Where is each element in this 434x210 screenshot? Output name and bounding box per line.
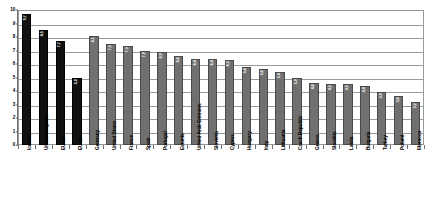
bar-slot: 8,1 <box>86 10 103 145</box>
bar-slot: 6,9 <box>153 10 170 145</box>
bar-value-label: 5,0 <box>75 79 79 84</box>
x-axis-tick-mark <box>306 145 307 149</box>
bar-value-label: 7,5 <box>109 45 113 50</box>
bar-slot: 5,6 <box>255 10 272 145</box>
bar-slot: 3,9 <box>373 10 390 145</box>
y-axis-tick-label: 2 <box>13 116 15 121</box>
bar-slot: 7,7 <box>52 10 69 145</box>
x-axis-tick-mark <box>35 145 36 149</box>
x-axis-tick-mark <box>289 145 290 149</box>
bar-value-label: 3,6 <box>397 98 401 103</box>
bar-slot: 6,6 <box>170 10 187 145</box>
bar-value-label: 4,4 <box>363 87 367 92</box>
bar-value-label: 7,3 <box>126 48 130 53</box>
category-label: Germany <box>96 130 101 150</box>
y-axis-tick-label: 3 <box>13 102 15 107</box>
y-axis-tick-label: 6 <box>13 62 15 67</box>
category-label: EU-15 <box>62 137 67 150</box>
y-axis-tick-label: 4 <box>13 89 15 94</box>
category-label: United Kingdom <box>45 114 50 150</box>
y-axis-tick-label: 7 <box>13 48 15 53</box>
category-label: Czech Republic <box>299 116 304 150</box>
bar[interactable]: 7,3 <box>123 46 132 145</box>
bar-value-label: 6,4 <box>194 60 198 65</box>
bar[interactable]: 5,0 <box>72 78 81 146</box>
bar[interactable]: 7,0 <box>140 51 149 146</box>
x-axis-tick-mark <box>390 145 391 149</box>
bar-value-label: 6,6 <box>177 57 181 62</box>
bar-slot: 5,8 <box>238 10 255 145</box>
bar-slot: 3,2 <box>407 10 424 145</box>
x-axis-tick-mark <box>170 145 171 149</box>
x-axis-tick-mark <box>52 145 53 149</box>
x-axis-tick-mark <box>103 145 104 149</box>
y-axis-tick-label: 9 <box>13 21 15 26</box>
category-label: Bulgaria <box>367 132 372 150</box>
category-label: Turkey <box>384 135 389 150</box>
category-label: France <box>130 135 135 150</box>
category-label: Slovakia <box>333 131 338 150</box>
category-label: Portugal <box>164 131 169 150</box>
bar-slot: 9,7 <box>18 10 35 145</box>
bar-slot: 6,4 <box>204 10 221 145</box>
category-label: Estonia <box>181 133 186 150</box>
bar-value-label: 8,5 <box>42 32 46 37</box>
bar-slot: 6,3 <box>221 10 238 145</box>
bar-value-label: 4,5 <box>329 86 333 91</box>
bar-value-label: 5,4 <box>278 73 282 78</box>
bars-layer: 9,78,57,75,08,17,57,37,06,96,66,46,46,35… <box>18 10 424 145</box>
bar-slot: 7,0 <box>136 10 153 145</box>
bar-value-label: 7,0 <box>143 52 147 57</box>
bar-value-label: 3,2 <box>414 103 418 108</box>
x-axis-tick-mark <box>153 145 154 149</box>
x-axis-tick-mark <box>339 145 340 149</box>
category-label: Spain <box>147 137 152 150</box>
category-label: EU-25 <box>79 137 84 150</box>
y-axis-tick-label: 5 <box>13 75 15 80</box>
x-axis-tick-mark <box>373 145 374 149</box>
bar-value-label: 6,4 <box>211 60 215 65</box>
category-labels: IcelandUnited KingdomEU-15EU-25GermanyUn… <box>18 150 424 208</box>
bar-value-label: 4,5 <box>346 86 350 91</box>
category-label: Morocco <box>418 131 423 150</box>
y-axis-tick-label: 1 <box>13 129 15 134</box>
x-axis-tick-mark <box>407 145 408 149</box>
x-axis-tick-mark <box>204 145 205 149</box>
x-axis-tick-mark <box>238 145 239 149</box>
bar[interactable]: 6,3 <box>225 60 234 145</box>
y-axis-tick-label: 0 <box>13 143 15 148</box>
x-axis-tick-mark <box>255 145 256 149</box>
bar-value-label: 7,7 <box>58 42 62 47</box>
bar-value-label: 9,7 <box>25 15 29 20</box>
category-label: Poland <box>401 135 406 150</box>
category-label: Greece <box>316 134 321 150</box>
bar-slot: 5,0 <box>69 10 86 145</box>
y-axis-tick-label: 10 <box>10 8 15 13</box>
x-axis-tick-mark <box>69 145 70 149</box>
bar-value-label: 6,3 <box>228 61 232 66</box>
x-axis-tick-mark <box>356 145 357 149</box>
bar[interactable]: 6,6 <box>174 56 183 145</box>
bar[interactable]: 9,7 <box>22 14 31 145</box>
y-axis-tick-label: 8 <box>13 35 15 40</box>
category-label: United States <box>113 121 118 150</box>
bar-value-label: 3,9 <box>380 94 384 99</box>
bar-slot: 4,4 <box>356 10 373 145</box>
category-label: Hungary <box>248 131 253 150</box>
bar-slot: 3,6 <box>390 10 407 145</box>
category-label: Cyprus <box>231 134 236 150</box>
bar-slot: 5,4 <box>272 10 289 145</box>
category-label: Slovenia <box>215 131 220 150</box>
bar[interactable]: 8,1 <box>89 36 98 145</box>
x-axis-tick-mark <box>86 145 87 149</box>
bar-value-label: 6,9 <box>160 53 164 58</box>
bar[interactable]: 5,6 <box>259 69 268 145</box>
category-label: Iceland <box>28 134 33 150</box>
bar-value-label: 5,0 <box>295 79 299 84</box>
x-axis-tick-mark <box>221 145 222 149</box>
bar-value-label: 5,6 <box>261 71 265 76</box>
x-axis-tick-mark <box>272 145 273 149</box>
bar[interactable]: 7,7 <box>56 41 65 145</box>
bar-value-label: 5,8 <box>245 68 249 73</box>
bar-value-label: 4,6 <box>312 84 316 89</box>
